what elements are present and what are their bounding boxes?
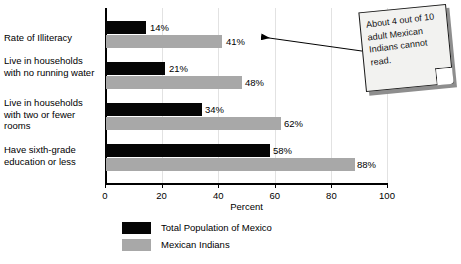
x-tick-label-60: 60	[260, 190, 290, 201]
bar-mexican-indians-no-running-water	[106, 76, 242, 89]
category-label-sixth-grade-education: Have sixth-grade education or less	[4, 144, 102, 167]
category-label-rate-of-illiteracy: Rate of Illiteracy	[4, 32, 102, 44]
bar-value-total-population-two-or-fewer-rooms: 34%	[205, 103, 224, 116]
x-tick-20	[162, 184, 163, 188]
bar-total-population-sixth-grade-education	[106, 144, 270, 157]
bar-total-population-no-running-water	[106, 62, 165, 75]
x-tick-label-80: 80	[316, 190, 346, 201]
x-axis-line	[105, 183, 388, 185]
x-tick-100	[387, 184, 388, 188]
callout-note-folded-corner	[435, 67, 454, 86]
bar-value-mexican-indians-no-running-water: 48%	[245, 76, 264, 89]
category-label-two-or-fewer-rooms: Live in households with two or fewer roo…	[4, 97, 102, 132]
x-tick-80	[331, 184, 332, 188]
category-label-no-running-water: Live in households with no running water	[4, 55, 102, 78]
x-tick-label-20: 20	[147, 190, 177, 201]
bar-value-mexican-indians-sixth-grade-education: 88%	[357, 158, 376, 171]
legend-label-mexican-indians: Mexican Indians	[161, 238, 230, 251]
legend-swatch-total-population	[122, 222, 151, 234]
bar-value-total-population-no-running-water: 21%	[169, 62, 188, 75]
x-tick-label-100: 100	[372, 190, 402, 201]
x-tick-0	[105, 184, 106, 188]
x-tick-label-40: 40	[203, 190, 233, 201]
gridline-80	[331, 8, 332, 183]
plot-area: 0 20 40 60 80 100 14% 41% 21% 48% 34% 62…	[105, 8, 388, 183]
x-tick-40	[218, 184, 219, 188]
bar-chart-figure: Rate of Illiteracy Live in households wi…	[0, 0, 461, 264]
bar-value-total-population-rate-of-illiteracy: 14%	[150, 21, 169, 34]
legend-label-total-population: Total Population of Mexico	[161, 221, 272, 234]
bar-value-mexican-indians-rate-of-illiteracy: 41%	[226, 35, 245, 48]
x-tick-60	[275, 184, 276, 188]
bar-mexican-indians-two-or-fewer-rooms	[106, 117, 281, 130]
callout-note-text: About 4 out of 10 adult Mexican Indians …	[365, 10, 447, 69]
x-axis-title: Percent	[105, 201, 388, 212]
bar-total-population-two-or-fewer-rooms	[106, 103, 202, 116]
callout-note: About 4 out of 10 adult Mexican Indians …	[358, 4, 453, 92]
bar-value-total-population-sixth-grade-education: 58%	[273, 144, 292, 157]
bar-mexican-indians-sixth-grade-education	[106, 158, 355, 171]
bar-mexican-indians-rate-of-illiteracy	[106, 35, 222, 48]
x-tick-label-0: 0	[90, 190, 120, 201]
legend-swatch-mexican-indians	[122, 239, 151, 251]
bar-total-population-rate-of-illiteracy	[106, 21, 146, 34]
bar-value-mexican-indians-two-or-fewer-rooms: 62%	[284, 117, 303, 130]
